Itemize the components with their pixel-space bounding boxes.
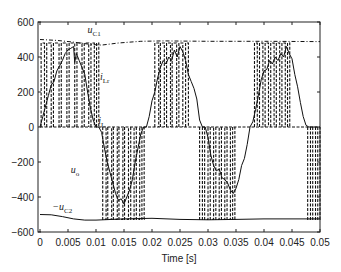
y-tick-label: 0 bbox=[28, 122, 34, 133]
y-tick-label: 200 bbox=[17, 87, 34, 98]
y-tick-label: −600 bbox=[11, 227, 34, 238]
x-tick-label: 0.005 bbox=[55, 237, 80, 248]
x-tick-label: 0 bbox=[37, 237, 43, 248]
x-tick-label: 0.035 bbox=[223, 237, 248, 248]
x-axis-title: Time [s] bbox=[161, 253, 196, 264]
x-tick-label: 0.04 bbox=[254, 237, 274, 248]
x-tick-label: 0.025 bbox=[167, 237, 192, 248]
y-tick-label: 400 bbox=[17, 52, 34, 63]
x-tick-label: 0.045 bbox=[279, 237, 304, 248]
x-tick-label: 0.02 bbox=[142, 237, 162, 248]
x-tick-label: 0.05 bbox=[310, 237, 330, 248]
y-tick-label: −200 bbox=[11, 157, 34, 168]
x-tick-label: 0.015 bbox=[111, 237, 136, 248]
x-tick-label: 0.03 bbox=[198, 237, 218, 248]
chart: 00.0050.010.0150.020.0250.030.0350.040.0… bbox=[0, 0, 341, 272]
plot-area bbox=[38, 22, 320, 232]
y-tick-label: 600 bbox=[17, 17, 34, 28]
y-tick-label: −400 bbox=[11, 192, 34, 203]
x-tick-label: 0.01 bbox=[86, 237, 106, 248]
